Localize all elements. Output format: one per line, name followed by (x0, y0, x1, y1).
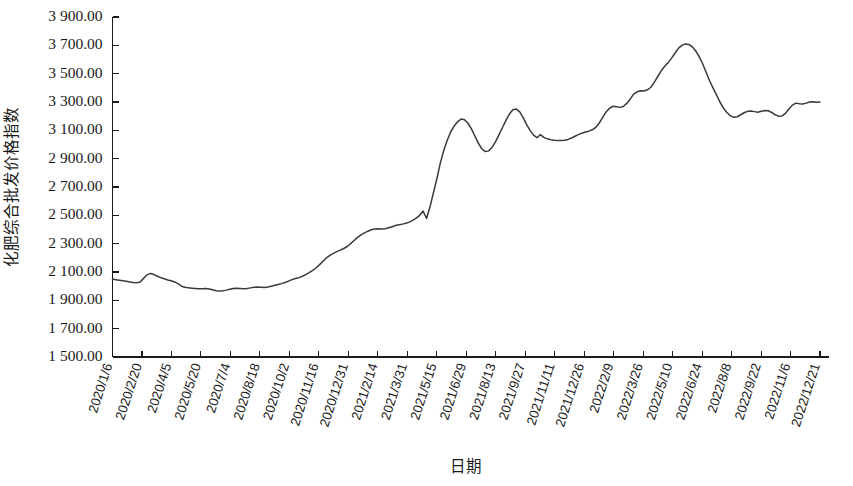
x-axis-tick-label: 2021/3/31 (378, 361, 410, 421)
x-axis-tick-label: 2021/12/26 (552, 361, 587, 428)
x-axis-tick-label: 2021/11/11 (523, 361, 557, 427)
x-axis-ticks (113, 351, 821, 357)
x-axis-tick-label: 2020/4/5 (144, 361, 174, 414)
y-axis-tick-label: 3 700.00 (48, 35, 103, 52)
x-axis-tick-label: 2022/2/9 (586, 361, 616, 414)
y-axis-tick-label: 3 900.00 (48, 7, 103, 24)
x-axis-title: 日期 (450, 458, 482, 475)
y-axis-tick-label: 1 900.00 (48, 290, 103, 307)
y-axis-tick-label: 2 300.00 (48, 234, 103, 251)
x-axis-tick-label: 2020/1/6 (85, 361, 115, 414)
chart-canvas: 3 900.003 700.003 500.003 300.003 100.00… (0, 0, 853, 486)
x-axis-tick-label: 2022/11/6 (761, 361, 793, 421)
y-axis-ticks (113, 17, 119, 357)
x-axis-tick-label: 2020/11/16 (287, 361, 321, 427)
y-axis-tick-label: 3 300.00 (48, 92, 103, 109)
y-axis-tick-label: 1 500.00 (48, 347, 103, 364)
x-axis-tick-label: 2021/6/29 (437, 361, 469, 421)
x-axis-tick-label: 2021/9/27 (496, 361, 528, 421)
y-axis-tick-labels: 3 900.003 700.003 500.003 300.003 100.00… (48, 7, 103, 364)
x-axis-tick-label: 2020/8/18 (230, 361, 262, 421)
fertilizer-price-index-chart: 3 900.003 700.003 500.003 300.003 100.00… (0, 0, 853, 486)
x-axis-tick-label: 2020/5/20 (171, 361, 203, 421)
y-axis-tick-label: 3 500.00 (48, 64, 103, 81)
x-axis-tick-label: 2020/7/4 (203, 361, 233, 414)
x-axis-tick-label: 2020/2/20 (112, 361, 144, 421)
x-axis-tick-label: 2021/2/14 (348, 361, 380, 421)
x-axis-tick-label: 2020/10/2 (260, 361, 292, 421)
x-axis-tick-label: 2022/6/24 (673, 361, 705, 421)
x-axis-tick-labels: 2020/1/62020/2/202020/4/52020/5/202020/7… (85, 361, 823, 428)
x-axis-tick-label: 2022/8/8 (704, 361, 734, 414)
y-axis-tick-label: 2 100.00 (48, 262, 103, 279)
y-axis-tick-label: 2 500.00 (48, 205, 103, 222)
x-axis-tick-label: 2022/3/26 (614, 361, 646, 421)
x-axis-tick-label: 2021/5/15 (407, 361, 439, 421)
x-axis-tick-label: 2022/9/22 (731, 361, 763, 421)
y-axis-tick-label: 1 700.00 (48, 319, 103, 336)
y-axis-tick-label: 3 100.00 (48, 120, 103, 137)
y-axis-tick-label: 2 700.00 (48, 177, 103, 194)
x-axis-tick-label: 2022/12/21 (788, 361, 823, 428)
y-axis-tick-label: 2 900.00 (48, 149, 103, 166)
x-axis-tick-label: 2021/8/13 (466, 361, 498, 421)
y-axis-title: 化肥综合批发价格指数 (3, 107, 20, 267)
data-series-line (113, 44, 821, 291)
x-axis-tick-label: 2020/12/31 (317, 361, 352, 428)
x-axis-tick-label: 2022/5/10 (643, 361, 675, 421)
